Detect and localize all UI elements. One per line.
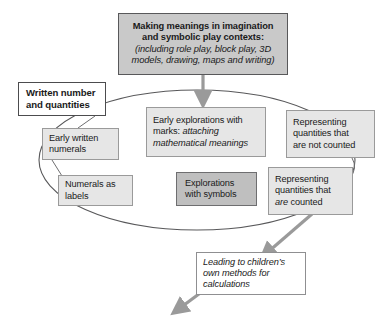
node-early-written-numerals[interactable]: Early written numerals <box>42 128 119 160</box>
explorations-symbols-line1: Explorations <box>185 178 252 189</box>
early-written-numerals-line1: Early written <box>49 133 114 144</box>
node-numerals-as-labels[interactable]: Numerals as labels <box>58 175 133 206</box>
early-explorations-line3: mathematical meanings <box>153 138 261 149</box>
making-meanings-line1: Making meanings in imagination <box>122 21 284 32</box>
node-representing-not-counted[interactable]: Representing quantities that are not cou… <box>286 110 375 158</box>
representing-are-counted-line3: are counted <box>275 197 348 208</box>
representing-not-counted-line3: are not counted <box>293 140 370 151</box>
connector-numerals-to-labels <box>52 160 62 176</box>
node-leading-to-calculations[interactable]: Leading to children’s own methods for ca… <box>196 252 306 295</box>
representing-not-counted-line2: quantities that <box>293 128 370 139</box>
representing-are-counted-line1: Representing <box>275 174 348 185</box>
leading-to-calculations-line2: own methods for <box>203 268 301 279</box>
representing-are-counted-line3-plain: counted <box>288 197 322 207</box>
making-meanings-line2: and symbolic play contexts: <box>122 32 284 43</box>
making-meanings-line3: (including role play, block play, 3D <box>122 44 284 55</box>
numerals-as-labels-line2: labels <box>65 191 128 202</box>
explorations-symbols-line2: with symbols <box>185 189 252 200</box>
representing-are-counted-line3-italic: are <box>275 197 288 207</box>
node-early-explorations-with-marks[interactable]: Early explorations with marks: attaching… <box>146 107 266 157</box>
leading-to-calculations-line1: Leading to children’s <box>203 257 301 268</box>
arrow-counted-to-calculations <box>268 214 312 252</box>
early-written-numerals-line2: numerals <box>49 144 114 155</box>
leading-to-calculations-line3: calculations <box>203 279 301 290</box>
representing-are-counted-line2: quantities that <box>275 185 348 196</box>
making-meanings-line4: models, drawing, maps and writing) <box>122 55 284 66</box>
node-explorations-with-symbols[interactable]: Explorations with symbols <box>176 172 257 206</box>
written-number-line2: and quantities <box>26 99 105 111</box>
diagram-canvas: Making meanings in imagination and symbo… <box>0 0 388 317</box>
node-representing-are-counted[interactable]: Representing quantities that are counted <box>268 167 353 215</box>
early-explorations-line2-italic: attaching <box>182 126 218 136</box>
early-explorations-line2-plain: marks: <box>153 126 182 136</box>
early-explorations-line2: marks: attaching <box>153 126 261 137</box>
early-explorations-line1: Early explorations with <box>153 115 261 126</box>
node-written-number-and-quantities[interactable]: Written number and quantities <box>18 82 106 116</box>
representing-not-counted-line1: Representing <box>293 117 370 128</box>
node-making-meanings[interactable]: Making meanings in imagination and symbo… <box>118 13 288 75</box>
numerals-as-labels-line1: Numerals as <box>65 179 128 190</box>
connector-written-to-numerals <box>78 116 95 128</box>
written-number-line1: Written number <box>26 87 105 99</box>
